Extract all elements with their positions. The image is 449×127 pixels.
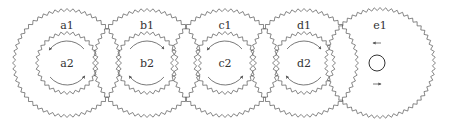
- rotation-arrow-icon: [50, 76, 85, 85]
- outer-gear-label-e: e1: [373, 19, 387, 32]
- rotation-arrow-icon: [129, 76, 164, 85]
- inner-gear-label-d: d2: [297, 57, 311, 70]
- inner-gear-label-a: a2: [60, 57, 74, 70]
- outer-gear-label-b: b1: [140, 19, 154, 32]
- rotation-arrow-icon: [287, 41, 321, 49]
- outer-gear-label-a: a1: [60, 19, 74, 32]
- rotation-arrow-icon: [130, 41, 164, 49]
- outer-gear-label-d: d1: [297, 19, 311, 32]
- rotation-arrow-icon: [208, 76, 243, 85]
- rotation-arrow-icon: [49, 41, 84, 50]
- outer-gear-label-c: c1: [218, 19, 231, 32]
- inner-gear-label-c: c2: [218, 57, 231, 70]
- inner-gear-label-b: b2: [140, 57, 154, 70]
- rotation-arrow-icon: [207, 41, 242, 50]
- rotation-arrow-icon: [286, 76, 321, 85]
- axle-circle: [369, 55, 385, 71]
